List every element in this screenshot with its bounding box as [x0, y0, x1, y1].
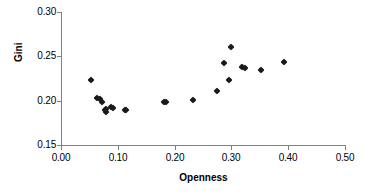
y-tick-label: 0.15	[22, 140, 56, 150]
y-tick-label: 0.25	[22, 51, 56, 61]
x-tick-mark	[345, 146, 346, 150]
x-tick-label: 0.10	[98, 153, 138, 163]
x-axis-title: Openness	[61, 172, 346, 183]
y-tick-label: 0.20	[22, 96, 56, 106]
y-axis-title: Gini	[13, 43, 24, 62]
plot-area	[61, 12, 345, 145]
x-tick-label: 0.30	[211, 153, 251, 163]
x-tick-mark	[118, 146, 119, 150]
x-tick-label: 0.50	[325, 153, 365, 163]
x-tick-label: 0.00	[41, 153, 81, 163]
x-tick-mark	[231, 146, 232, 150]
x-tick-label: 0.20	[155, 153, 195, 163]
x-axis-line	[61, 145, 346, 146]
x-tick-label: 0.40	[268, 153, 308, 163]
x-tick-mark	[61, 146, 62, 150]
x-tick-mark	[175, 146, 176, 150]
scatter-chart: 0.150.200.250.30 0.000.100.200.300.400.5…	[0, 0, 367, 196]
x-tick-mark	[288, 146, 289, 150]
y-tick-label: 0.30	[22, 7, 56, 17]
